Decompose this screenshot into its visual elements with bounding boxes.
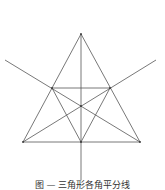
extended-line-to-bottom-right — [5, 60, 140, 142]
point-apex — [80, 33, 82, 35]
point-mid-left — [51, 87, 53, 89]
point-bottom-left — [22, 141, 24, 143]
point-mid-right — [109, 87, 111, 89]
extended-line-to-bottom-left — [23, 60, 156, 142]
point-bottom-right — [139, 141, 141, 143]
figure-caption: 图 — 三角形各角平分线 — [0, 180, 165, 190]
point-mid-bottom — [80, 141, 82, 143]
triangle-diagram — [0, 0, 165, 190]
point-center — [80, 105, 82, 107]
